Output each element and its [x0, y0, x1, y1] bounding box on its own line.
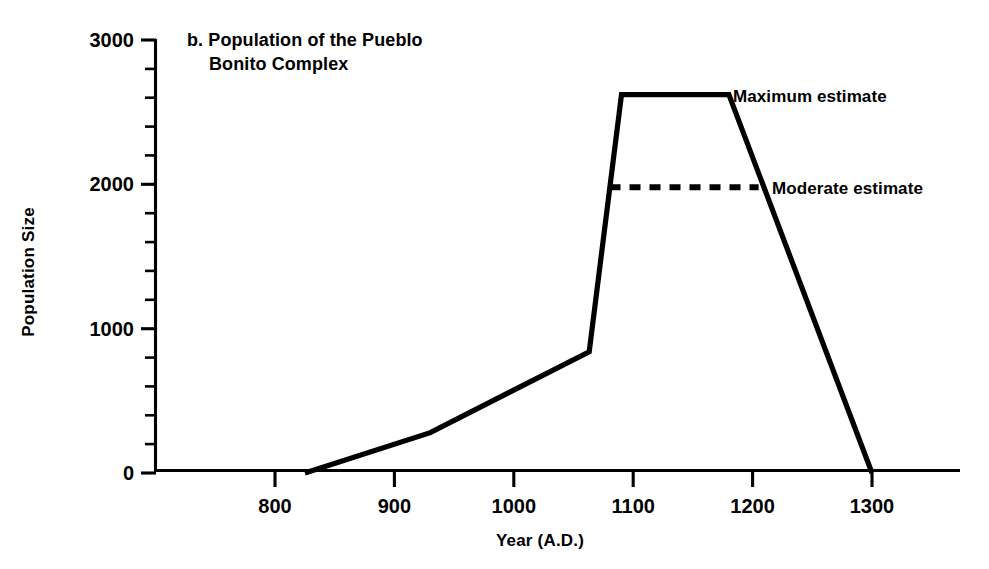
- series-label-maximum-estimate: Maximum estimate: [733, 87, 887, 106]
- chart-title-line-2: Bonito Complex: [209, 54, 348, 74]
- x-axis-major-ticks: [275, 470, 872, 487]
- x-tick-label-800: 800: [258, 495, 291, 517]
- x-axis-title: Year (A.D.): [496, 531, 584, 550]
- x-tick-label-1100: 1100: [612, 495, 655, 517]
- series-maximum-estimate-line: [305, 95, 872, 473]
- x-tick-label-1300: 1300: [850, 495, 895, 517]
- x-axis-tick-labels: 800 900 1000 1100 1200 1300: [258, 495, 894, 517]
- x-tick-label-900: 900: [378, 495, 411, 517]
- chart-title-line-1: b. Population of the Pueblo: [187, 30, 423, 50]
- series-label-moderate-estimate: Moderate estimate: [772, 179, 923, 198]
- y-axis-major-ticks: [141, 40, 156, 473]
- chart-title: b. Population of the Pueblo Bonito Compl…: [187, 30, 423, 74]
- y-tick-label-3000: 3000: [90, 29, 135, 51]
- x-tick-label-1200: 1200: [730, 495, 775, 517]
- chart-figure: 3000 2000 1000 0 800 900 1000 1100 1200 …: [0, 0, 989, 569]
- y-axis-title: Population Size: [19, 207, 38, 337]
- x-tick-label-1000: 1000: [492, 495, 537, 517]
- y-axis-tick-labels: 3000 2000 1000 0: [90, 29, 135, 484]
- population-line-chart: 3000 2000 1000 0 800 900 1000 1100 1200 …: [0, 0, 989, 569]
- y-tick-label-0: 0: [123, 462, 134, 484]
- y-tick-label-1000: 1000: [90, 318, 135, 340]
- y-tick-label-2000: 2000: [90, 173, 135, 195]
